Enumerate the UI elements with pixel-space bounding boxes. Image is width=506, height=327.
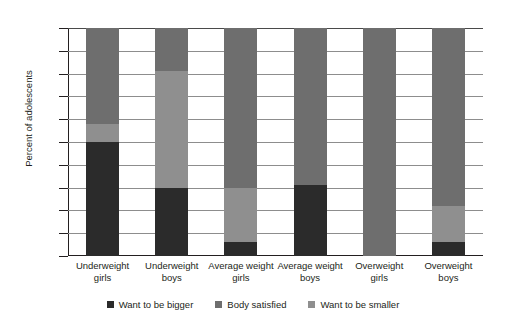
gridline	[68, 51, 483, 52]
bar-overweight-girls	[363, 28, 396, 256]
y-tick-mark	[59, 256, 68, 257]
gridline	[68, 119, 483, 120]
gridline	[68, 142, 483, 143]
bar-segment-body-satisfied	[294, 28, 327, 185]
bar-segment-body-satisfied	[363, 28, 396, 256]
legend-swatch-icon	[107, 301, 114, 308]
y-tick-mark	[59, 96, 68, 97]
y-tick-mark	[59, 51, 68, 52]
y-tick-mark	[59, 210, 68, 211]
y-tick-mark	[59, 74, 68, 75]
bar-segment-want-to-be-bigger	[86, 142, 119, 256]
legend-swatch-icon	[308, 301, 315, 308]
gridline	[68, 28, 483, 29]
gridline	[68, 74, 483, 75]
legend-swatch-icon	[215, 301, 222, 308]
bar-average-weight-boys	[294, 28, 327, 256]
bar-segment-body-satisfied	[224, 28, 257, 188]
gridline	[68, 188, 483, 189]
bar-underweight-girls	[86, 28, 119, 256]
bar-segment-want-to-be-bigger	[294, 185, 327, 256]
bar-segment-want-to-be-bigger	[432, 242, 465, 256]
gridline	[68, 96, 483, 97]
y-tick-mark	[59, 142, 68, 143]
bar-segment-body-satisfied	[432, 28, 465, 206]
plot-area: 0102030405060708090100	[68, 28, 483, 256]
bar-average-weight-girls	[224, 28, 257, 256]
bar-segment-body-satisfied	[155, 28, 188, 71]
gridline	[68, 233, 483, 234]
y-tick-mark	[59, 165, 68, 166]
bar-segment-want-to-be-bigger	[155, 188, 188, 256]
gridline	[68, 210, 483, 211]
bar-segment-want-to-be-smaller	[432, 206, 465, 242]
legend-label: Body satisfied	[227, 299, 286, 310]
bar-segment-body-satisfied	[86, 28, 119, 124]
chart-legend: Want to be biggerBody satisfiedWant to b…	[0, 299, 506, 310]
y-tick-mark	[59, 188, 68, 189]
bar-segment-want-to-be-smaller	[155, 71, 188, 187]
legend-label: Want to be smaller	[320, 299, 399, 310]
y-tick-mark	[59, 119, 68, 120]
y-tick-mark	[59, 233, 68, 234]
y-axis-title: Percent of adolescents	[23, 9, 34, 229]
y-tick-mark	[59, 28, 68, 29]
gridline	[68, 165, 483, 166]
bar-overweight-boys	[432, 28, 465, 256]
legend-item: Want to be smaller	[308, 299, 399, 310]
bar-underweight-boys	[155, 28, 188, 256]
stacked-bar-chart: Percent of adolescents 01020304050607080…	[0, 0, 506, 327]
bar-segment-want-to-be-bigger	[224, 242, 257, 256]
legend-item: Body satisfied	[215, 299, 286, 310]
legend-item: Want to be bigger	[107, 299, 194, 310]
bar-segment-want-to-be-smaller	[86, 124, 119, 142]
bar-segment-want-to-be-smaller	[224, 188, 257, 243]
x-axis-label: Overweightboys	[398, 260, 498, 283]
legend-label: Want to be bigger	[119, 299, 194, 310]
